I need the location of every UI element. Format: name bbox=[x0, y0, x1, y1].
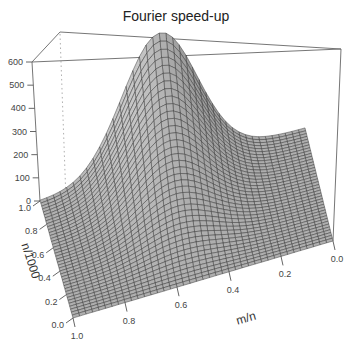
surface-facet bbox=[200, 226, 207, 231]
surface-facet bbox=[227, 230, 234, 234]
x-axis-label: m/n bbox=[234, 309, 257, 328]
surface-facet bbox=[161, 49, 168, 57]
surface-facet bbox=[254, 173, 261, 176]
z-tick-label: 400 bbox=[11, 103, 26, 113]
surface-facet bbox=[252, 192, 259, 195]
y-tick bbox=[40, 224, 47, 229]
surface-facet bbox=[212, 216, 219, 221]
surface-facet bbox=[236, 208, 243, 212]
surface-facet bbox=[168, 118, 175, 126]
surface-facet bbox=[242, 205, 249, 209]
z-tick-label: 300 bbox=[12, 127, 27, 137]
surface-facet bbox=[171, 147, 178, 155]
surface-facet bbox=[163, 73, 170, 81]
x-tick-label: 1.0 bbox=[71, 331, 84, 341]
surface-facet bbox=[189, 192, 196, 199]
surface-facet bbox=[205, 216, 212, 222]
surface-facet bbox=[160, 41, 167, 49]
surface-facet bbox=[233, 226, 240, 230]
surface-facet bbox=[256, 155, 263, 158]
surface-facet bbox=[179, 160, 186, 167]
y-tick bbox=[46, 248, 53, 253]
surface-facet bbox=[185, 210, 192, 216]
surface-facet bbox=[167, 111, 174, 119]
z-tick-label: 200 bbox=[13, 150, 28, 160]
surface-facet bbox=[232, 219, 239, 223]
surface-facet bbox=[180, 174, 187, 181]
surface-facet bbox=[214, 226, 221, 231]
x-tick bbox=[177, 287, 179, 296]
surface-facet bbox=[206, 221, 213, 226]
surface-facet bbox=[182, 186, 189, 192]
z-axis: 6005004003002001000 bbox=[8, 57, 40, 206]
surface-facet bbox=[248, 202, 255, 205]
box-edge-right-vertical bbox=[333, 49, 341, 241]
surface-facet bbox=[159, 33, 166, 41]
surface-facet bbox=[255, 149, 262, 152]
surface-facet bbox=[225, 218, 232, 223]
surface-facet bbox=[170, 140, 177, 148]
x-tick bbox=[281, 256, 283, 265]
surface-facet bbox=[199, 215, 206, 220]
surface-facet bbox=[243, 212, 250, 216]
surface-facet bbox=[219, 217, 226, 222]
y-tick-label: 0.2 bbox=[45, 297, 58, 307]
surface-facet bbox=[207, 226, 214, 231]
surface-facet bbox=[257, 158, 264, 161]
surface-facet bbox=[246, 195, 253, 199]
surface-facet bbox=[178, 154, 185, 161]
surface-facet bbox=[239, 222, 246, 226]
surface-facet bbox=[247, 198, 254, 201]
surface-facet bbox=[184, 198, 191, 204]
x-tick-label: 0.0 bbox=[331, 254, 344, 264]
surface-facet bbox=[255, 176, 262, 179]
surface-facet bbox=[232, 223, 239, 227]
box-edge-back-top bbox=[60, 32, 341, 49]
surface-facet bbox=[231, 215, 238, 219]
surface-facet bbox=[219, 222, 226, 227]
surface-facet bbox=[180, 167, 187, 174]
surface-plot: Fourier speed-up 6005004003002001000 1.0… bbox=[0, 0, 352, 353]
surface-facet bbox=[258, 161, 265, 164]
box-edge-hidden-dotted bbox=[60, 34, 66, 200]
surface-facet bbox=[201, 231, 208, 236]
surface-facet bbox=[164, 81, 171, 89]
surface-facet bbox=[181, 180, 188, 186]
x-tick-label: 0.8 bbox=[123, 316, 136, 326]
y-tick-label: 0.8 bbox=[25, 226, 38, 236]
surface-facet bbox=[191, 204, 198, 210]
surface-facet bbox=[162, 65, 169, 73]
surface-facet bbox=[238, 219, 245, 223]
surface-facet bbox=[192, 210, 199, 216]
surface-facet bbox=[172, 154, 179, 162]
surface-facet bbox=[248, 205, 255, 209]
x-tick bbox=[73, 318, 75, 327]
surface-facet bbox=[253, 139, 260, 142]
surface-facet bbox=[249, 179, 256, 183]
surface-facet bbox=[213, 221, 220, 226]
surface-facet bbox=[193, 221, 200, 227]
surface-facet bbox=[243, 208, 250, 212]
surface-facet bbox=[250, 182, 257, 186]
surface-facet bbox=[183, 192, 190, 198]
surface-facet bbox=[190, 198, 197, 204]
x-tick-label: 0.4 bbox=[227, 285, 240, 295]
surface-facet bbox=[165, 89, 172, 97]
surface-facet bbox=[198, 210, 205, 216]
surface-facet bbox=[253, 142, 260, 145]
surface-facet bbox=[189, 186, 196, 193]
y-tick bbox=[66, 318, 73, 323]
surface-facet bbox=[208, 235, 215, 240]
surface-facet bbox=[184, 204, 191, 210]
surface-facet bbox=[169, 133, 176, 141]
surface-facet bbox=[253, 167, 260, 170]
chart-title: Fourier speed-up bbox=[123, 8, 230, 24]
surface-facet bbox=[162, 57, 169, 65]
y-axis-label: n/1000 bbox=[18, 241, 43, 281]
y-tick bbox=[33, 201, 40, 206]
y-tick bbox=[53, 271, 60, 276]
y-tick bbox=[59, 295, 66, 300]
box-edge-left-top bbox=[32, 32, 60, 62]
surface-facet bbox=[192, 215, 199, 221]
surface-facet bbox=[169, 126, 176, 134]
